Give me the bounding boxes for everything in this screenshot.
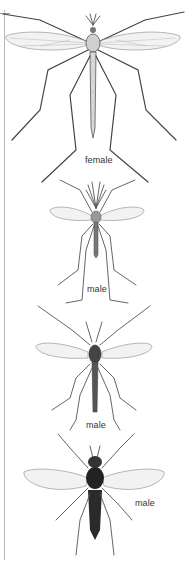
- specimen-label-male-2: male: [86, 420, 106, 430]
- fly-illustration: [24, 434, 164, 555]
- specimen-label-male-3: male: [135, 498, 155, 508]
- insect-illustrations: [0, 0, 186, 562]
- specimen-label-female: female: [85, 155, 113, 165]
- specimen-label-male-1: male: [87, 284, 107, 294]
- midge-illustration: [36, 306, 152, 430]
